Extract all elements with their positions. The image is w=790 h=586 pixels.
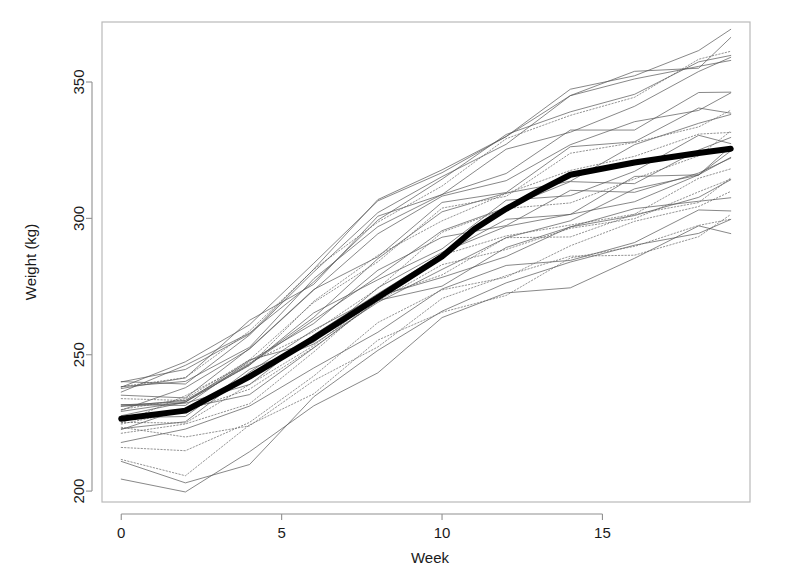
x-tick-label: 10	[434, 524, 451, 541]
x-tick-label: 0	[117, 524, 125, 541]
x-axis-title: Week	[411, 549, 450, 566]
chart-canvas: 051015 200250300350 Week Weight (kg)	[0, 0, 790, 586]
y-tick-label: 350	[70, 69, 87, 94]
y-tick-label: 250	[70, 342, 87, 367]
y-axis-title: Weight (kg)	[22, 224, 39, 300]
x-tick-label: 15	[594, 524, 611, 541]
y-tick-label: 300	[70, 206, 87, 231]
weight-over-week-chart: 051015 200250300350 Week Weight (kg)	[0, 0, 790, 586]
y-tick-label: 200	[70, 479, 87, 504]
plot-background	[0, 0, 790, 586]
x-tick-label: 5	[277, 524, 285, 541]
